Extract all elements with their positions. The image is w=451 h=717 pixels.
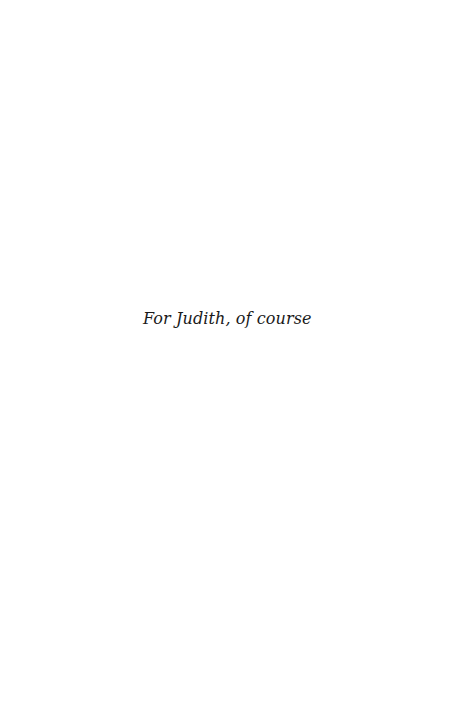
book-page: For Judith, of course <box>0 0 451 717</box>
dedication-text: For Judith, of course <box>143 309 312 328</box>
